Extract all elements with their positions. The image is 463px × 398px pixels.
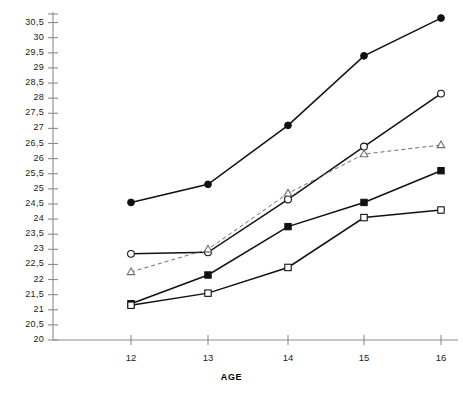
data-point-open-circle [438,90,445,97]
x-axis-title: AGE [0,372,463,382]
y-axis-tick-label: 30,5 [0,17,44,27]
y-axis-tick-label: 23,5 [0,228,44,238]
data-point-filled-square [361,199,367,205]
y-axis-tick-label: 29 [0,62,44,72]
data-point-open-triangle [284,189,292,196]
y-axis-tick-label: 20,5 [0,319,44,329]
y-axis-tick-label: 28 [0,92,44,102]
data-point-open-square [438,207,444,213]
data-point-open-square [361,214,367,220]
y-axis-tick-label: 25 [0,183,44,193]
x-axis-tick-label: 16 [421,352,461,363]
y-axis-tick-label: 22,5 [0,258,44,268]
y-axis-tick-label: 21,5 [0,289,44,299]
data-point-open-square [128,302,134,308]
series-filled-square [128,168,444,307]
data-point-filled-circle [438,15,445,22]
data-point-open-square [285,264,291,270]
data-point-filled-square [438,168,444,174]
y-axis-tick-label: 23 [0,243,44,253]
data-point-open-circle [361,143,368,150]
y-axis-tick-label: 26,5 [0,138,44,148]
y-axis-tick-label: 28,5 [0,77,44,87]
line-chart [0,0,463,398]
data-point-filled-square [205,272,211,278]
series-filled-circle [128,15,445,206]
x-axis-tick-label: 15 [344,352,384,363]
data-point-open-square [205,290,211,296]
data-point-open-circle [128,250,135,257]
data-point-filled-square [285,223,291,229]
data-point-open-triangle [437,141,445,148]
chart-root: 30,53029,52928,52827,52726,52625,52524,5… [0,0,463,398]
y-axis-tick-label: 27,5 [0,107,44,117]
y-axis-tick-label: 22 [0,274,44,284]
y-axis-tick-label: 27 [0,122,44,132]
data-point-filled-circle [285,122,292,129]
y-axis-tick-label: 20 [0,334,44,344]
series-open-triangle [127,141,445,275]
data-point-open-triangle [204,245,212,252]
data-point-filled-circle [205,181,212,188]
data-point-open-circle [285,196,292,203]
data-point-filled-circle [128,199,135,206]
x-axis-tick-label: 14 [268,352,308,363]
y-axis-tick-label: 29,5 [0,47,44,57]
data-point-filled-circle [361,52,368,59]
x-axis-tick-label: 12 [111,352,151,363]
y-axis-tick-label: 26 [0,153,44,163]
y-axis-tick-label: 24 [0,213,44,223]
y-axis-tick-label: 30 [0,32,44,42]
y-axis-tick-label: 24,5 [0,198,44,208]
y-axis-tick-label: 21 [0,304,44,314]
y-axis-tick-label: 25,5 [0,168,44,178]
series-open-square [128,207,444,309]
series-open-circle [128,90,445,257]
x-axis-tick-label: 13 [188,352,228,363]
